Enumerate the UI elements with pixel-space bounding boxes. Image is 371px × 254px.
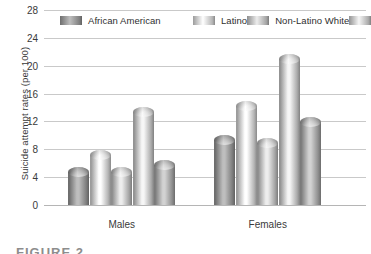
bar-body	[236, 106, 257, 205]
legend-item-1: Latino	[193, 14, 247, 28]
legend-label-1: Latino	[221, 15, 247, 26]
legend-label-0: African American	[88, 15, 161, 26]
bar-cap	[133, 107, 154, 117]
legend-swatch-3	[349, 16, 371, 25]
bar-males-series-3	[133, 107, 154, 205]
bar-body	[111, 172, 132, 205]
bar-females-series-0	[214, 135, 235, 205]
bar-cap	[90, 150, 111, 160]
y-tick-label-28: 28	[27, 5, 38, 16]
bar-cap-shading	[257, 138, 278, 148]
bar-males-series-0	[68, 167, 89, 205]
legend-label-2: Non-Latino White	[275, 15, 349, 26]
x-axis-label-females: Females	[249, 219, 287, 230]
legend-swatch-2	[247, 16, 269, 25]
bar-females-series-4	[300, 117, 321, 205]
legend-item-0: African American	[60, 14, 193, 28]
y-axis-title: Suicide attempt rates (per 100)	[19, 24, 30, 204]
bar-series-container	[44, 9, 366, 205]
bar-group-females	[214, 9, 322, 205]
bar-females-series-3	[279, 54, 300, 205]
axis-baseline: 0	[44, 205, 366, 206]
bar-males-series-4	[154, 160, 175, 205]
y-tick-label-8: 8	[32, 144, 38, 155]
bar-cap-shading	[214, 135, 235, 145]
y-tick-label-4: 4	[32, 172, 38, 183]
y-tick-label-0: 0	[32, 200, 38, 211]
plot-area: 0481216202428 MalesFemales	[44, 9, 366, 206]
legend-item-2: Non-Latino White	[247, 14, 349, 28]
bar-body	[133, 112, 154, 205]
bar-males-series-1	[90, 150, 111, 205]
bar-cap	[279, 54, 300, 64]
y-tick-label-16: 16	[27, 88, 38, 99]
bar-cap	[236, 101, 257, 111]
x-axis-label-males: Males	[108, 219, 135, 230]
bar-body	[279, 59, 300, 205]
bar-cap-shading	[236, 101, 257, 111]
bar-body	[68, 172, 89, 205]
y-tick-label-20: 20	[27, 60, 38, 71]
bar-females-series-2	[257, 138, 278, 205]
bar-body	[257, 143, 278, 205]
bar-cap	[68, 167, 89, 177]
bar-cap-shading	[68, 167, 89, 177]
bar-cap-shading	[133, 107, 154, 117]
bar-body	[300, 122, 321, 205]
bar-females-series-1	[236, 101, 257, 205]
legend-swatch-0	[60, 16, 82, 25]
bar-body	[214, 140, 235, 205]
bar-cap-shading	[279, 54, 300, 64]
bar-cap	[257, 138, 278, 148]
legend-item-3: American Indian/Alaska Native	[349, 14, 371, 28]
y-tick-label-12: 12	[27, 116, 38, 127]
bar-cap-shading	[90, 150, 111, 160]
bar-group-males	[68, 9, 176, 205]
bar-cap	[111, 167, 132, 177]
legend-swatch-1	[193, 16, 215, 25]
bar-body	[154, 165, 175, 205]
bar-males-series-2	[111, 167, 132, 205]
bar-body	[90, 155, 111, 205]
figure-caption: FIGURE 2	[16, 245, 84, 254]
bar-cap-shading	[111, 167, 132, 177]
figure-chart: Suicide attempt rates (per 100) 04812162…	[0, 0, 371, 254]
bar-cap	[214, 135, 235, 145]
y-tick-label-24: 24	[27, 32, 38, 43]
chart-legend: African AmericanLatinoNon-Latino WhiteAm…	[60, 14, 360, 28]
